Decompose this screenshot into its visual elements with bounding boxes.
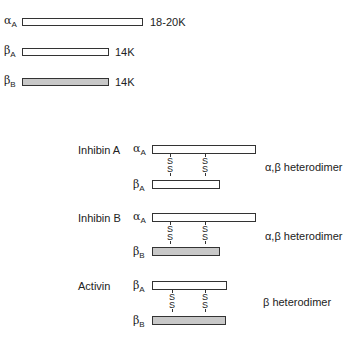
inhibin-a-top-bar xyxy=(152,145,256,154)
inhibin-a-name: Inhibin A xyxy=(78,144,120,156)
beta-a-size: 14K xyxy=(115,46,135,58)
disulfide-bond: SS xyxy=(201,154,209,176)
subunit-label-beta-b: βB xyxy=(4,74,16,91)
disulfide-bond: SS xyxy=(166,222,174,244)
alpha-a-size: 18-20K xyxy=(150,16,185,28)
activin-type: β heterodimer xyxy=(263,296,331,308)
activin-top-bar xyxy=(152,281,227,290)
disulfide-bond: SS xyxy=(168,290,176,312)
inhibin-b-bottom-bar xyxy=(152,247,220,256)
beta-b-bar xyxy=(22,78,109,86)
inhibin-a-bottom-label: βA xyxy=(133,178,145,195)
activin-bottom-label: βB xyxy=(133,314,145,331)
inhibin-b-top-label: αA xyxy=(133,210,146,227)
inhibin-a-top-label: αA xyxy=(133,142,146,159)
inhibin-b-type: α,β heterodimer xyxy=(265,230,343,242)
subunit-label-alpha-a: αA xyxy=(4,14,17,31)
subunit-label-beta-a: βA xyxy=(4,44,16,61)
inhibin-b-top-bar xyxy=(152,213,256,222)
beta-a-bar xyxy=(22,48,109,56)
inhibin-b-name: Inhibin B xyxy=(78,212,121,224)
activin-bottom-bar xyxy=(152,316,226,325)
activin-top-label: βA xyxy=(133,279,145,296)
inhibin-b-bottom-label: βB xyxy=(133,245,145,262)
disulfide-bond: SS xyxy=(201,222,209,244)
activin-name: Activin xyxy=(78,280,110,292)
disulfide-bond: SS xyxy=(201,290,209,312)
beta-b-size: 14K xyxy=(115,76,135,88)
inhibin-a-type: α,β heterodimer xyxy=(265,161,343,173)
inhibin-a-bottom-bar xyxy=(152,180,220,189)
alpha-a-bar xyxy=(22,18,143,26)
disulfide-bond: SS xyxy=(166,154,174,176)
